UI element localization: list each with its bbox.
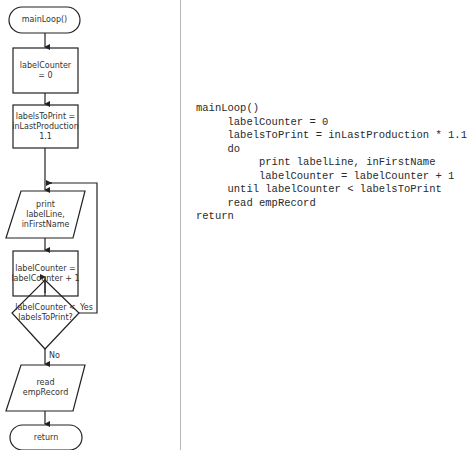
- divider: [180, 0, 181, 450]
- init-counter-label: labelCounter = 0: [13, 48, 78, 93]
- decision-label: labelCounter < labelsToPrint?: [12, 298, 79, 328]
- pseudocode-block: mainLoop() labelCounter = 0 labelsToPrin…: [196, 102, 467, 224]
- no-edge-label: No: [49, 351, 60, 360]
- code-line: labelCounter = labelCounter + 1: [196, 170, 467, 184]
- print-io-label: print labelLine, inFirstName: [13, 191, 78, 238]
- read-io-label: read empRecord: [13, 365, 78, 411]
- flowchart: mainLoop() labelCounter = 0 labelsToPrin…: [0, 0, 180, 450]
- end-terminator-label: return: [10, 425, 82, 450]
- code-line: return: [196, 210, 467, 224]
- code-line: until labelCounter < labelsToPrint: [196, 183, 467, 197]
- code-line: mainLoop(): [196, 102, 467, 116]
- code-line: labelsToPrint = inLastProduction * 1.1: [196, 129, 467, 143]
- start-terminator-label: mainLoop(): [9, 7, 80, 33]
- increment-label: labelCounter = labelCounter + 1: [11, 251, 80, 296]
- calc-labels-label: labelsToPrint = inLastProduction 1.1: [11, 105, 80, 148]
- yes-edge-label: Yes: [80, 303, 93, 312]
- code-line: print labelLine, inFirstName: [196, 156, 467, 170]
- code-line: labelCounter = 0: [196, 116, 467, 130]
- code-line: read empRecord: [196, 197, 467, 211]
- code-line: do: [196, 143, 467, 157]
